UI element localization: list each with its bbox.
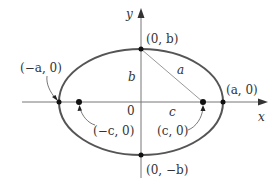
point-top-vertex <box>139 47 144 52</box>
label-segment-a: a <box>177 63 184 77</box>
leader-arrow-icon <box>78 105 83 111</box>
label-left-vertex: (−a, 0) <box>20 61 62 75</box>
leader-left-focus <box>78 105 96 125</box>
segment-a <box>141 49 203 102</box>
x-axis-arrow-icon <box>258 99 268 106</box>
label-segment-b: b <box>128 70 136 84</box>
y-axis-label: y <box>125 7 133 21</box>
point-bottom-vertex <box>139 153 144 158</box>
point-right-focus <box>200 99 206 105</box>
label-top-vertex: (0, b) <box>146 32 178 46</box>
point-left-focus <box>76 99 82 105</box>
leader-right-focus <box>188 105 206 130</box>
label-bottom-vertex: (0, −b) <box>146 163 188 177</box>
ellipse-diagram: y x 0 (0, b) (0, −b) (−a, 0) (a, 0) (−c,… <box>0 0 280 185</box>
x-axis-label: x <box>258 110 265 124</box>
leader-arrow-icon <box>201 105 206 111</box>
label-segment-c: c <box>169 105 176 119</box>
point-right-vertex <box>221 100 226 105</box>
leader-left-vertex <box>47 76 58 101</box>
origin-label: 0 <box>127 104 135 118</box>
leader-arrow-icon <box>52 95 58 101</box>
label-right-vertex: (a, 0) <box>226 83 258 97</box>
y-axis-arrow-icon <box>138 8 145 18</box>
label-left-focus: (−c, 0) <box>93 124 134 138</box>
label-right-focus: (c, 0) <box>157 124 188 138</box>
